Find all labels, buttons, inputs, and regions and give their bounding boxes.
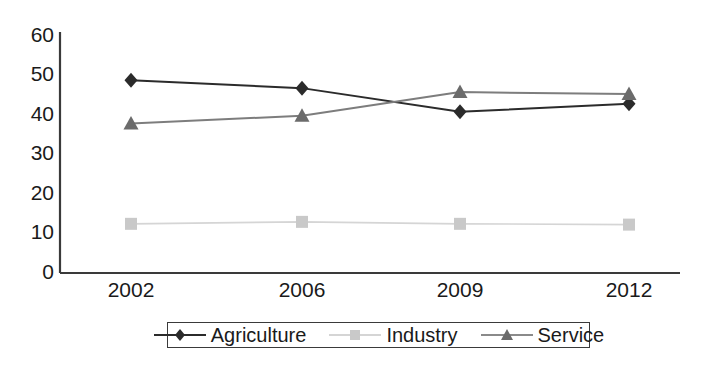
data-series-layer	[124, 73, 637, 231]
data-point-marker	[296, 81, 309, 96]
legend-label-agriculture: Agriculture	[211, 325, 307, 345]
legend-label-service: Service	[538, 325, 605, 345]
legend-item-agriculture[interactable]: Agriculture	[153, 325, 307, 345]
series-agriculture	[125, 73, 636, 119]
series-line	[131, 80, 629, 111]
chart-legend: Agriculture Industry Service	[167, 322, 590, 348]
data-point-marker	[623, 219, 635, 231]
line-chart: 60 50 40 30 20 10 0 2002 2006 2009 2012 …	[0, 0, 721, 370]
series-line	[131, 222, 629, 225]
triangle-marker-icon	[480, 326, 534, 344]
data-point-marker	[125, 73, 138, 88]
square-marker-icon	[328, 326, 382, 344]
data-point-marker	[296, 216, 308, 228]
data-point-marker	[125, 218, 137, 230]
legend-label-industry: Industry	[386, 325, 457, 345]
diamond-marker-icon	[153, 326, 207, 344]
data-point-marker	[454, 104, 467, 119]
axis-lines	[60, 32, 680, 273]
data-point-marker	[454, 218, 466, 230]
series-industry	[125, 216, 635, 231]
plot-area	[0, 0, 721, 370]
legend-item-service[interactable]: Service	[480, 325, 605, 345]
legend-item-industry[interactable]: Industry	[328, 325, 457, 345]
